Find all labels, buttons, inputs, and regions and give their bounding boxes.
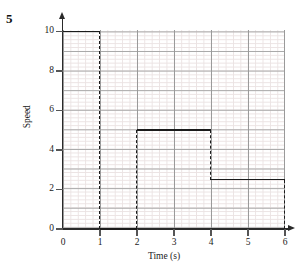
x-axis-label-text: Time (s) <box>148 252 180 262</box>
data-segment-vertical <box>210 130 211 179</box>
x-tick-label: 4 <box>201 238 221 248</box>
x-axis-line <box>62 228 290 229</box>
y-tick <box>56 149 63 150</box>
data-segment-vertical <box>99 31 100 229</box>
y-axis-label: Speed <box>23 87 33 147</box>
x-tick <box>99 229 100 236</box>
y-tick-label: 8 <box>24 66 54 76</box>
y-tick <box>56 70 63 71</box>
y-axis-line <box>62 18 63 230</box>
data-segment-horizontal <box>137 129 211 131</box>
x-tick-label: 1 <box>90 238 110 248</box>
speed-time-graph: 0246810 0123456 Speed Time (s) <box>0 0 306 269</box>
x-axis-arrow-icon <box>288 225 295 231</box>
data-segment-horizontal <box>63 31 100 33</box>
x-tick <box>284 229 285 236</box>
data-segment-horizontal <box>211 179 285 181</box>
x-tick <box>136 229 137 236</box>
x-tick-label: 5 <box>238 238 258 248</box>
x-tick-label: 0 <box>53 238 73 248</box>
y-tick-label: 10 <box>24 26 54 36</box>
x-tick-label: 2 <box>127 238 147 248</box>
y-tick <box>56 228 63 229</box>
y-tick-label: 0 <box>24 224 54 234</box>
x-tick <box>210 229 211 236</box>
y-tick <box>56 189 63 190</box>
y-tick <box>56 110 63 111</box>
y-axis-arrow-icon <box>59 12 65 19</box>
data-segment-vertical <box>284 180 285 229</box>
x-tick-label: 3 <box>164 238 184 248</box>
data-segment-vertical <box>136 130 137 229</box>
data-segment-horizontal <box>100 228 137 230</box>
y-tick <box>56 31 63 32</box>
y-tick-label: 2 <box>24 184 54 194</box>
x-tick <box>247 229 248 236</box>
x-tick <box>173 229 174 236</box>
x-tick-label: 6 <box>275 238 295 248</box>
x-axis-label: Time (s) <box>0 252 306 262</box>
